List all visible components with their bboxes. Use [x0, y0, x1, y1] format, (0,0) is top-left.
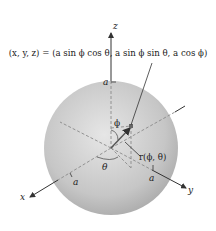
x-axis — [30, 180, 58, 197]
a-x-label: a — [73, 177, 78, 187]
phi-label: ϕ — [114, 118, 120, 128]
neg-x-outer — [175, 106, 185, 112]
equation-label: (x, y, z) = (a sin ϕ cos θ, a sin ϕ sin … — [9, 48, 208, 58]
r-vector-label: r(ϕ, θ) — [139, 152, 166, 162]
a-y-label: a — [149, 173, 154, 183]
y-axis-label: y — [187, 185, 194, 195]
x-axis-label: x — [20, 192, 25, 202]
z-axis-label: z — [112, 21, 118, 31]
sphere-diagram: z x y (x, y, z) = (a sin ϕ cos θ, a sin … — [0, 0, 216, 231]
theta-label: θ — [102, 162, 108, 172]
a-top-label: a — [103, 77, 108, 87]
